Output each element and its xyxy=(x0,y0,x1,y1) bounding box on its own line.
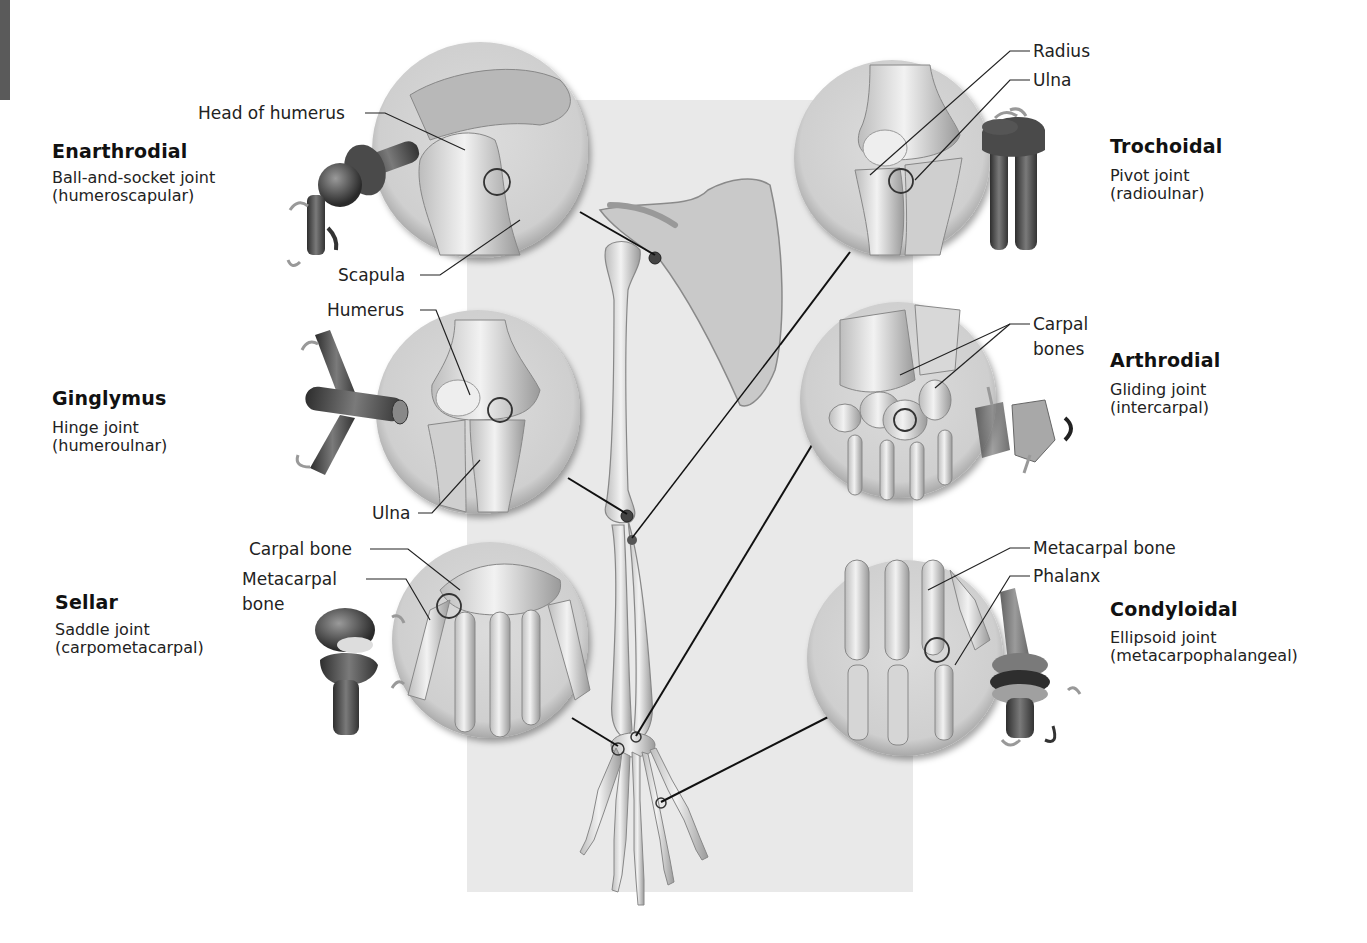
label-bones: bones xyxy=(1033,340,1084,358)
joint-type-sellar: Saddle joint xyxy=(55,622,150,638)
label-carpal-bone: Carpal bone xyxy=(249,540,352,558)
joint-type-trochoidal: Pivot joint xyxy=(1110,168,1189,184)
detail-circle-arthrodial xyxy=(800,302,996,500)
label-phalanx: Phalanx xyxy=(1033,567,1100,585)
ellipsoid-model-icon xyxy=(990,588,1080,745)
detail-circle-trochoidal xyxy=(794,60,990,256)
label-carpal: Carpal xyxy=(1033,315,1088,333)
joint-example-arthrodial: (intercarpal) xyxy=(1110,400,1209,416)
label-humerus: Humerus xyxy=(327,301,404,319)
label-metacarpal-bone-line2: bone xyxy=(242,595,284,613)
label-radius: Radius xyxy=(1033,42,1090,60)
joint-title-ginglymus: Ginglymus xyxy=(52,387,167,409)
joint-example-trochoidal: (radioulnar) xyxy=(1110,186,1204,202)
label-metacarpal-bone: Metacarpal bone xyxy=(1033,539,1176,557)
label-ulna-forearm: Ulna xyxy=(1033,71,1071,89)
pivot-model-icon xyxy=(982,109,1045,250)
joint-title-trochoidal: Trochoidal xyxy=(1110,135,1223,157)
label-metacarpal: Metacarpal xyxy=(242,570,337,588)
saddle-model-icon xyxy=(315,608,404,735)
joint-type-ginglymus: Hinge joint xyxy=(52,420,139,436)
label-scapula: Scapula xyxy=(338,266,405,284)
joint-type-enarthrodial: Ball-and-socket joint xyxy=(52,170,215,186)
joint-example-sellar: (carpometacarpal) xyxy=(55,640,204,656)
joint-title-enarthrodial: Enarthrodial xyxy=(52,140,188,162)
joint-example-ginglymus: (humeroulnar) xyxy=(52,438,167,454)
joint-type-arthrodial: Gliding joint xyxy=(1110,382,1206,398)
label-head-of-humerus: Head of humerus xyxy=(198,104,345,122)
label-ulna-elbow: Ulna xyxy=(372,504,410,522)
joint-example-enarthrodial: (humeroscapular) xyxy=(52,188,194,204)
gliding-model-icon xyxy=(975,387,1071,473)
joint-title-sellar: Sellar xyxy=(55,591,118,613)
joint-type-condyloidal: Ellipsoid joint xyxy=(1110,630,1217,646)
joint-title-condyloidal: Condyloidal xyxy=(1110,598,1238,620)
detail-circle-condyloidal xyxy=(807,560,1003,756)
joint-title-arthrodial: Arthrodial xyxy=(1110,349,1221,371)
joint-example-condyloidal: (metacarpophalangeal) xyxy=(1110,648,1298,664)
detail-circle-sellar xyxy=(392,542,590,738)
center-skeleton xyxy=(580,179,782,905)
